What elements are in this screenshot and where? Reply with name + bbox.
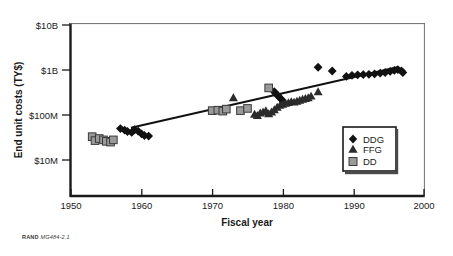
cost-vs-fiscal-year-scatter-chart: $10B $1B $100M $10M 1950 1960 1970 1980 … [0,0,453,256]
x-tick-label-1970: 1970 [202,200,223,211]
x-axis-title: Fiscal year [221,217,273,228]
x-tick-label-1990: 1990 [344,200,365,211]
chart-legend[interactable]: DDG FFG DD [343,127,398,174]
y-axis-title: End unit costs (TY$) [13,62,24,159]
y-tick-label-1b: $1B [41,65,58,76]
legend-shadow-right [396,129,398,174]
square-marker-icon [349,158,357,166]
legend-shadow-bottom [345,172,398,174]
figure-container: $10B $1B $100M $10M 1950 1960 1970 1980 … [0,0,453,256]
y-tick-label-10b: $10B [36,20,58,31]
y-tick-label-10m: $10M [34,155,58,166]
data-point-dd [244,105,252,113]
data-point-dd [110,136,118,144]
legend-label-ffg: FFG [363,144,382,155]
x-tick-label-1980: 1980 [273,200,294,211]
data-point-dd [223,105,231,113]
data-point-dd [265,84,273,92]
x-tick-label-2000: 2000 [413,200,434,211]
legend-item-dd[interactable]: DD [349,156,377,167]
source-note: RAND MG484-2.1 [22,234,70,240]
legend-label-dd: DD [363,156,377,167]
source-note-brand: RAND [22,234,39,240]
x-tick-label-1950: 1950 [60,200,81,211]
y-tick-label-100m: $100M [29,110,58,121]
x-tick-label-1960: 1960 [131,200,152,211]
y-axis-ticks: $10B $1B $100M $10M [29,20,70,166]
data-point-dd [237,107,245,115]
source-note-id: MG484-2.1 [40,234,69,240]
